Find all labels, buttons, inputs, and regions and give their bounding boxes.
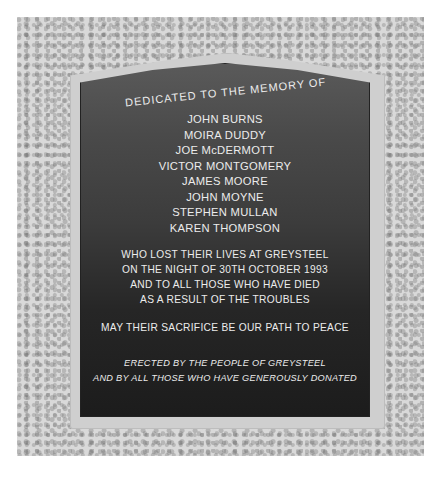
inscription-line: WHO LOST THEIR LIVES AT GREYSTEEL bbox=[81, 247, 369, 262]
memorial-photo: DEDICATED TO THE MEMORY OF JOHN BURNS MO… bbox=[17, 17, 424, 456]
name-item: JOE McDERMOTT bbox=[81, 143, 369, 159]
motto: MAY THEIR SACRIFICE BE OUR PATH TO PEACE bbox=[81, 322, 369, 333]
inscription-line: AND TO ALL THOSE WHO HAVE DIED bbox=[81, 277, 369, 292]
memorial-plaque: DEDICATED TO THE MEMORY OF JOHN BURNS MO… bbox=[80, 63, 370, 417]
name-item: JAMES MOORE bbox=[81, 174, 369, 190]
inscription: WHO LOST THEIR LIVES AT GREYSTEEL ON THE… bbox=[81, 247, 369, 307]
name-item: JOHN MOYNE bbox=[81, 190, 369, 206]
erected-line: ERECTED BY THE PEOPLE OF GREYSTEEL bbox=[81, 356, 369, 371]
names-list: JOHN BURNS MOIRA DUDDY JOE McDERMOTT VIC… bbox=[81, 112, 369, 236]
name-item: JOHN BURNS bbox=[81, 112, 369, 128]
inscription-line: ON THE NIGHT OF 30TH OCTOBER 1993 bbox=[81, 262, 369, 277]
name-item: MOIRA DUDDY bbox=[81, 128, 369, 144]
dedication-heading: DEDICATED TO THE MEMORY OF bbox=[81, 80, 369, 92]
name-item: KAREN THOMPSON bbox=[81, 221, 369, 237]
dedication-text: DEDICATED TO THE MEMORY OF bbox=[125, 75, 327, 108]
name-item: VICTOR MONTGOMERY bbox=[81, 159, 369, 175]
erected-by: ERECTED BY THE PEOPLE OF GREYSTEEL AND B… bbox=[81, 356, 369, 386]
erected-line: AND BY ALL THOSE WHO HAVE GENEROUSLY DON… bbox=[81, 371, 369, 386]
inscription-line: AS A RESULT OF THE TROUBLES bbox=[81, 292, 369, 307]
name-item: STEPHEN MULLAN bbox=[81, 205, 369, 221]
